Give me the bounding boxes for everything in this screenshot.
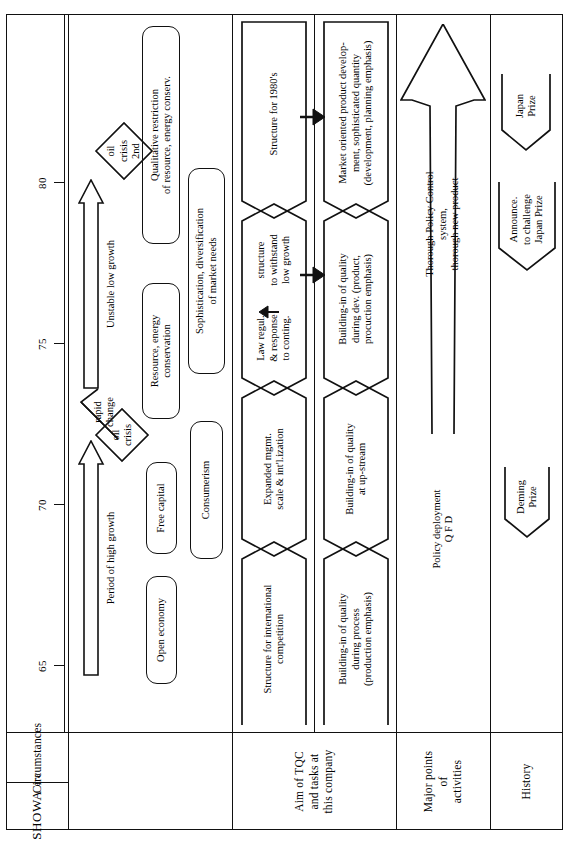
circumstance-qualitative-restriction-label: Qualitative restriction of resource, ene… — [143, 27, 179, 243]
row-label-major-points: Major points of activities — [396, 733, 490, 830]
tqc-lower-market-oriented-product-development-label: Market oriented product develop- ment, s… — [322, 26, 390, 200]
tqc-connector-arrow-right — [300, 106, 326, 128]
shock-diamond-oil-crisis-1: oil crisis — [94, 407, 150, 463]
band-divider-tqc — [396, 14, 397, 830]
row-label-era-main: SHOWA — [29, 791, 45, 840]
axis-tick-70 — [54, 504, 64, 505]
row-label-history: History — [490, 733, 563, 830]
band-divider-major-points — [490, 14, 491, 830]
axis-tick-80 — [54, 182, 64, 183]
history-milestone-japan-prize-label: Japan Prize — [500, 76, 552, 136]
diagram-canvas: SHOWA era Circumstances Aim of TQC and t… — [0, 0, 569, 844]
history-milestone-announce-challenge-label: Announce. to challenge Japan Prize — [497, 183, 557, 256]
tqc-upper-structure-1980s-label: Structure for 1980's — [240, 28, 308, 200]
row-label-aim-of-tqc: Aim of TQC and tasks at this company — [232, 733, 396, 830]
axis-tick-label-75: 75 — [36, 331, 48, 357]
era-arrow-high-growth-label: Period of high growth — [100, 440, 122, 676]
era-arrow-unstable-low-growth: Unstable low growth — [78, 179, 122, 389]
tqc-lower-market-oriented-product-development: Market oriented product develop- ment, s… — [322, 20, 390, 220]
row-label-circumstances: Circumstances — [6, 733, 68, 783]
tqc-upper-structure-withstand-label: structure to withstand low growth — [240, 219, 308, 301]
tqc-lower-building-in-quality-upstream: Building-in of quality at up-stream — [322, 380, 390, 558]
tqc-lower-building-in-quality-during-process: Building-in of quality during process (p… — [322, 541, 390, 727]
circumstance-free-capital: Free capital — [146, 462, 177, 554]
circumstance-sophistication-diversification: Sophistication, diversification of marke… — [188, 168, 225, 374]
tqc-lower-building-in-quality-upstream-label: Building-in of quality at up-stream — [322, 398, 390, 540]
history-milestone-japan-prize: Japan Prize — [500, 72, 552, 152]
tqc-lower-building-in-quality-during-dev-label: Building-in of quality during dev. (prod… — [322, 221, 390, 377]
circumstance-resource-energy-conservation-label: Resource, energy conservation — [143, 284, 179, 418]
era-arrow-unstable-low-growth-label: Unstable low growth — [100, 179, 122, 389]
tqc-upper-structure-international-competition: Structure for international competition — [240, 541, 308, 727]
axis-tick-label-70: 70 — [36, 492, 48, 518]
tqc-upper-expanded-mgmt: Expanded mgmt. scale & int'l.ization — [240, 380, 308, 558]
era-arrow-high-growth: Period of high growth — [78, 440, 122, 676]
circumstance-sophistication-diversification-label: Sophistication, diversification of marke… — [189, 169, 224, 373]
axis-tick-75 — [54, 343, 64, 344]
tqc-lower-building-in-quality-during-dev: Building-in of quality during dev. (prod… — [322, 203, 390, 397]
circumstance-open-economy: Open economy — [146, 576, 177, 684]
circumstance-open-economy-label: Open economy — [147, 577, 176, 683]
shock-diamond-oil-crisis-1-label: oil crisis — [94, 407, 150, 463]
axis-tick-65 — [54, 665, 64, 666]
tqc-connector-arrow-middle — [300, 264, 326, 286]
major-points-shaft-label: Policy deployment Q F D — [400, 374, 486, 684]
tqc-upper-expanded-mgmt-label: Expanded mgmt. scale & int'l.ization — [240, 398, 308, 540]
circumstance-consumerism-label: Consumerism — [191, 422, 222, 558]
major-points-big-arrow: Policy deployment Q F D Thorough Policy … — [400, 24, 486, 724]
time-axis-line — [64, 14, 65, 733]
circumstance-resource-energy-conservation: Resource, energy conservation — [142, 283, 180, 419]
history-milestone-announce-challenge: Announce. to challenge Japan Prize — [497, 180, 557, 272]
history-milestone-deming-prize: Deming Prize — [503, 465, 551, 539]
tqc-upper-structure-1980s: Structure for 1980's — [240, 20, 308, 220]
tqc-upper-low-growth-structure: Law regul. & response to conting. struct… — [240, 203, 308, 397]
circumstance-consumerism: Consumerism — [190, 421, 223, 559]
band-divider-circumstances — [232, 14, 233, 830]
circumstance-qualitative-restriction: Qualitative restriction of resource, ene… — [142, 26, 180, 244]
tqc-inline-arrow — [258, 304, 280, 320]
tqc-lower-building-in-quality-during-process-label: Building-in of quality during process (p… — [322, 557, 390, 721]
axis-tick-label-65: 65 — [36, 653, 48, 679]
major-points-head-label: Thorough Policy Control system, thorough… — [400, 154, 486, 294]
circumstance-free-capital-label: Free capital — [147, 463, 176, 553]
history-milestone-deming-prize-label: Deming Prize — [503, 469, 551, 525]
diagram-sheet: SHOWA era Circumstances Aim of TQC and t… — [0, 0, 569, 844]
axis-tick-label-80: 80 — [36, 170, 48, 196]
band-divider-era — [68, 14, 69, 830]
tqc-upper-structure-international-competition-label: Structure for international competition — [240, 557, 308, 721]
